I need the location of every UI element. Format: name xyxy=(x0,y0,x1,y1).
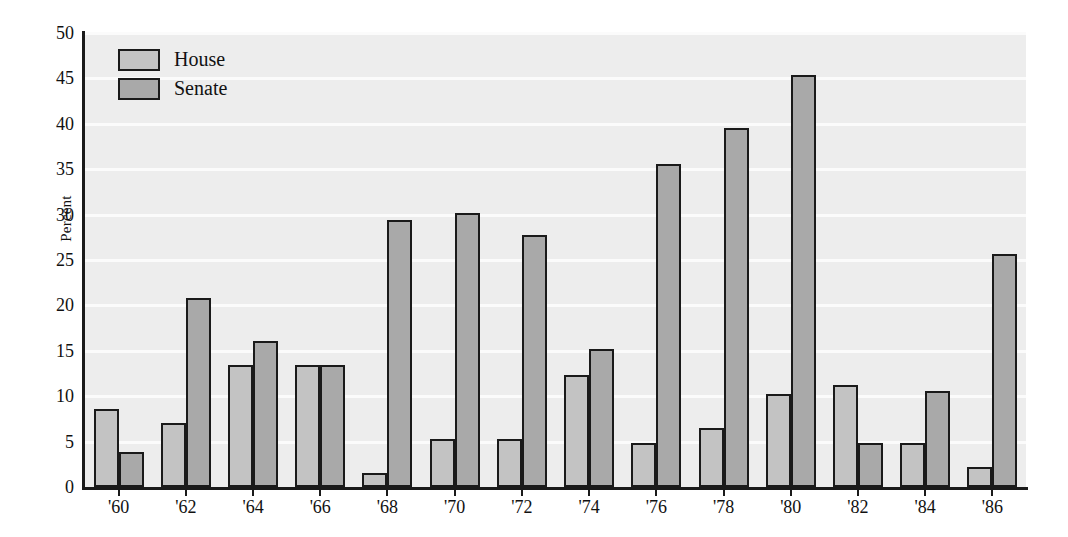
x-axis-tick-label: '72 xyxy=(511,497,532,518)
x-axis-tick-mark xyxy=(386,490,388,496)
bar-house-80 xyxy=(766,394,791,487)
bar-house-86 xyxy=(967,467,992,487)
x-axis-tick-label: '82 xyxy=(847,497,868,518)
x-axis-tick-mark xyxy=(319,490,321,496)
x-axis-tick-mark xyxy=(588,490,590,496)
bar-house-82 xyxy=(833,385,858,487)
bar-house-66 xyxy=(295,365,320,487)
bar-senate-84 xyxy=(925,391,950,487)
x-axis-tick-mark xyxy=(991,490,993,496)
y-axis-tick-label: 40 xyxy=(56,113,74,134)
bar-senate-74 xyxy=(589,349,614,487)
x-axis-tick-mark xyxy=(185,490,187,496)
x-axis-tick-label: '64 xyxy=(242,497,263,518)
y-axis-tick-label: 45 xyxy=(56,68,74,89)
x-axis-tick-label: '62 xyxy=(175,497,196,518)
y-axis-tick-label: 20 xyxy=(56,295,74,316)
y-axis-tick-label: 5 xyxy=(65,431,74,452)
bar-house-70 xyxy=(430,439,455,487)
y-axis-tick-labels: 05101520253035404550 xyxy=(0,0,84,537)
x-axis-tick-labels: '60'62'64'66'68'70'72'74'76'78'80'82'84'… xyxy=(0,487,1068,537)
x-axis-tick-label: '84 xyxy=(915,497,936,518)
x-axis-tick-mark xyxy=(655,490,657,496)
x-axis-tick-mark xyxy=(118,490,120,496)
legend: House Senate xyxy=(118,48,227,106)
bar-house-84 xyxy=(900,443,925,487)
legend-swatch-senate-icon xyxy=(118,78,160,100)
x-axis-tick-label: '76 xyxy=(646,497,667,518)
x-axis-tick-label: '80 xyxy=(780,497,801,518)
x-axis-tick-label: '68 xyxy=(377,497,398,518)
x-axis-tick-label: '86 xyxy=(982,497,1003,518)
bar-senate-80 xyxy=(791,75,816,487)
x-axis-tick-label: '78 xyxy=(713,497,734,518)
bar-senate-66 xyxy=(320,365,345,487)
y-axis-tick-label: 50 xyxy=(56,23,74,44)
y-axis-tick-label: 30 xyxy=(56,204,74,225)
bar-house-60 xyxy=(94,409,119,487)
bar-senate-76 xyxy=(656,164,681,487)
x-axis-tick-label: '66 xyxy=(310,497,331,518)
bar-senate-64 xyxy=(253,341,278,487)
x-axis-tick-mark xyxy=(723,490,725,496)
legend-swatch-house-icon xyxy=(118,49,160,71)
bar-house-64 xyxy=(228,365,253,487)
bar-chart-figure: Percent 05101520253035404550 '60'62'64'6… xyxy=(0,0,1068,537)
y-axis-tick-label: 15 xyxy=(56,340,74,361)
legend-entry-senate: Senate xyxy=(118,77,227,100)
bar-house-62 xyxy=(161,423,186,487)
x-axis-tick-label: '74 xyxy=(578,497,599,518)
x-axis-tick-mark xyxy=(924,490,926,496)
legend-label-house: House xyxy=(174,48,225,71)
bar-house-72 xyxy=(497,439,522,487)
y-axis-tick-label: 35 xyxy=(56,159,74,180)
x-axis-tick-label: '70 xyxy=(444,497,465,518)
x-axis-tick-label: '60 xyxy=(108,497,129,518)
x-axis-tick-mark xyxy=(790,490,792,496)
x-axis-tick-mark xyxy=(857,490,859,496)
legend-entry-house: House xyxy=(118,48,227,71)
bar-senate-82 xyxy=(858,443,883,487)
legend-label-senate: Senate xyxy=(174,77,227,100)
y-axis-tick-label: 10 xyxy=(56,386,74,407)
x-axis-tick-mark xyxy=(454,490,456,496)
bar-senate-62 xyxy=(186,298,211,487)
bar-senate-70 xyxy=(455,213,480,487)
x-axis-tick-mark xyxy=(252,490,254,496)
bar-senate-78 xyxy=(724,128,749,487)
y-axis-tick-label: 25 xyxy=(56,250,74,271)
bar-senate-68 xyxy=(387,220,412,487)
bar-senate-60 xyxy=(119,452,144,487)
bar-senate-86 xyxy=(992,254,1017,487)
bar-house-78 xyxy=(699,428,724,487)
bar-senate-72 xyxy=(522,235,547,487)
bar-house-68 xyxy=(362,473,387,487)
bar-house-76 xyxy=(631,443,656,487)
bar-house-74 xyxy=(564,375,589,487)
x-axis-tick-mark xyxy=(521,490,523,496)
